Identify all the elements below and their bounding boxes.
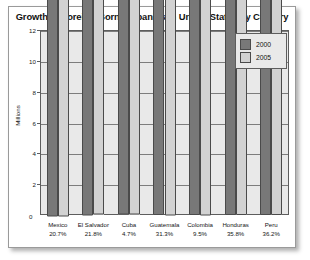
chart-legend: 2000 2005 bbox=[235, 33, 287, 69]
y-tick-label: 4 bbox=[33, 150, 36, 157]
y-tick-label-zero: 0 bbox=[29, 213, 32, 220]
bar-mexico-2000[interactable]: 9,062,208 bbox=[47, 0, 58, 216]
x-category-name: Mexico bbox=[48, 221, 67, 228]
x-category-percent: 4.7% bbox=[111, 229, 147, 238]
bar-guatemala-2000[interactable]: 516,570 bbox=[153, 0, 164, 215]
legend-swatch-2000 bbox=[240, 39, 251, 50]
x-tick-label: Colombia9.5% bbox=[182, 220, 218, 238]
legend-item: 2005 bbox=[240, 52, 282, 63]
legend-swatch-2005 bbox=[240, 52, 251, 63]
bar-cuba-2005[interactable]: 895,041 bbox=[129, 0, 140, 215]
y-tick-label: 12 bbox=[29, 27, 36, 34]
legend-label-2005: 2005 bbox=[256, 54, 271, 61]
x-category-name: El Salvador bbox=[78, 221, 109, 228]
bar-guatemala-2005[interactable]: 678,570 bbox=[165, 0, 176, 215]
y-tick-label: 6 bbox=[33, 119, 36, 126]
x-category-percent: 36.2% bbox=[253, 229, 289, 238]
x-category-name: Honduras bbox=[222, 221, 248, 228]
bar-group: 516,570678,570 bbox=[153, 30, 175, 215]
x-axis: Mexico20.7%El Salvador21.8%Cuba4.7%Guate… bbox=[40, 217, 289, 247]
x-category-name: Peru bbox=[265, 221, 278, 228]
x-category-percent: 35.8% bbox=[218, 229, 254, 238]
x-category-name: Cuba bbox=[122, 221, 137, 228]
bar-colombia-2005[interactable]: 556,403 bbox=[200, 0, 211, 215]
bar-colombia-2000[interactable]: 507,955 bbox=[189, 0, 200, 215]
x-tick-label: El Salvador21.8% bbox=[76, 220, 112, 238]
x-tick-label: Honduras35.8% bbox=[218, 220, 254, 238]
x-category-percent: 20.7% bbox=[40, 229, 76, 238]
bar-group: 855,304895,041 bbox=[118, 30, 140, 215]
bar-group: 9,062,20810,969,041 bbox=[47, 30, 69, 215]
y-tick-label: 2 bbox=[33, 181, 36, 188]
legend-item: 2000 bbox=[240, 39, 282, 50]
x-tick-label: Peru36.2% bbox=[253, 220, 289, 238]
x-tick-label: Mexico20.7% bbox=[40, 220, 76, 238]
y-tick-label: 10 bbox=[29, 57, 36, 64]
y-tick-label: 8 bbox=[33, 88, 36, 95]
bar-el-salvador-2000[interactable]: 817,614 bbox=[82, 0, 93, 215]
x-category-percent: 21.8% bbox=[76, 229, 112, 238]
x-tick-label: Cuba4.7% bbox=[111, 220, 147, 238]
x-category-name: Guatemala bbox=[150, 221, 180, 228]
bar-el-salvador-2005[interactable]: 987,499 bbox=[93, 0, 104, 215]
bar-cuba-2000[interactable]: 855,304 bbox=[118, 0, 129, 215]
x-tick-label: Guatemala31.3% bbox=[147, 220, 183, 238]
x-category-name: Colombia bbox=[187, 221, 213, 228]
legend-label-2000: 2000 bbox=[256, 41, 271, 48]
y-axis-label: Millions bbox=[14, 96, 21, 136]
bar-group: 817,614987,499 bbox=[82, 30, 104, 215]
bar-mexico-2005[interactable]: 10,969,041 bbox=[58, 0, 69, 216]
chart-figure: Growth of Foreign-Born Hispanics in Unit… bbox=[8, 6, 296, 248]
bar-group: 507,955556,403 bbox=[189, 30, 211, 215]
x-category-percent: 9.5% bbox=[182, 229, 218, 238]
bar-honduras-2000[interactable]: 278,694 bbox=[225, 0, 236, 215]
x-category-percent: 31.3% bbox=[147, 229, 183, 238]
